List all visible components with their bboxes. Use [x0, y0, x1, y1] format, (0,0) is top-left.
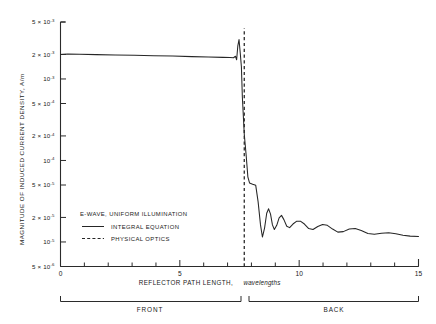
- front-region-label: FRONT: [137, 306, 164, 313]
- y-tick-label: 2 × 10-5: [32, 213, 55, 221]
- x-axis-title: REFLECTOR PATH LENGTH,: [139, 279, 234, 286]
- front-bracket: [61, 296, 242, 302]
- x-tick-labels: 051015: [59, 270, 423, 277]
- legend-label-integral-equation: INTEGRAL EQUATION: [111, 224, 179, 230]
- legend-label-physical-optics: PHYSICAL OPTICS: [111, 236, 170, 242]
- y-tick-labels: 5 × 10-32 × 10-310-35 × 10-42 × 10-410-4…: [32, 18, 55, 270]
- x-tick-marks: [61, 260, 419, 267]
- y-tick-label: 2 × 10-3: [32, 50, 55, 58]
- y-tick-label: 10-3: [43, 75, 55, 83]
- induced-current-density-plot: 5 × 10-32 × 10-310-35 × 10-42 × 10-410-4…: [0, 0, 436, 324]
- legend-title: E-WAVE, UNIFORM ILLUMINATION: [80, 211, 188, 217]
- region-brackets: FRONT BACK: [61, 296, 419, 313]
- y-tick-label: 10-4: [43, 156, 55, 164]
- back-bracket: [249, 296, 419, 302]
- y-tick-label: 10-5: [43, 238, 55, 246]
- y-tick-label: 5 × 10-6: [32, 262, 55, 270]
- legend: E-WAVE, UNIFORM ILLUMINATION INTEGRAL EQ…: [80, 211, 188, 242]
- x-axis-title-units: wavelengths: [243, 279, 281, 287]
- integral-equation-curve: [61, 40, 419, 238]
- y-tick-label: 5 × 10-5: [32, 181, 55, 189]
- y-tick-label: 5 × 10-4: [32, 99, 55, 107]
- y-axis-title: MAGNITUDE OF INDUCED CURRENT DENSITY, A/…: [18, 73, 25, 245]
- chart-figure: 5 × 10-32 × 10-310-35 × 10-42 × 10-410-4…: [0, 0, 436, 324]
- x-tick-label: 0: [59, 270, 63, 277]
- back-region-label: BACK: [323, 306, 344, 313]
- y-tick-marks: [61, 22, 67, 267]
- x-tick-label: 5: [178, 270, 182, 277]
- x-tick-label: 10: [295, 270, 303, 277]
- y-tick-label: 5 × 10-3: [32, 18, 55, 26]
- y-tick-label: 2 × 10-4: [32, 132, 55, 140]
- x-tick-label: 15: [415, 270, 423, 277]
